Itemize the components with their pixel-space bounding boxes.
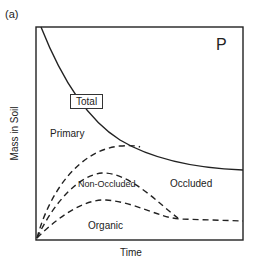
total-label-box: Total <box>70 94 103 109</box>
occluded-region-label: Occluded <box>170 178 212 189</box>
primary-region-label: Primary <box>50 128 84 139</box>
y-axis-label: Mass in Soil <box>9 107 20 161</box>
x-axis-label: Time <box>120 247 142 258</box>
non-occluded-region-label: Non-Occluded <box>78 179 136 189</box>
organic-region-label: Organic <box>88 220 123 231</box>
lower-dashed-curve <box>37 200 243 238</box>
element-label: P <box>216 36 227 54</box>
